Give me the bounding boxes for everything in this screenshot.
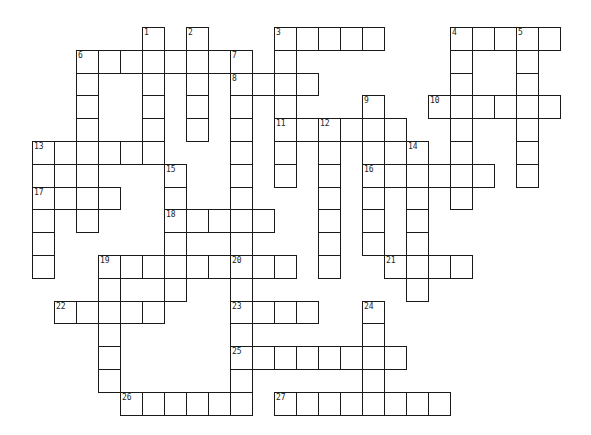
crossword-cell[interactable] — [450, 255, 473, 279]
crossword-cell[interactable] — [76, 301, 99, 325]
crossword-cell[interactable]: 2 — [186, 27, 209, 51]
crossword-cell[interactable] — [252, 73, 275, 97]
crossword-cell[interactable] — [384, 118, 407, 142]
crossword-cell[interactable]: 11 — [274, 118, 297, 142]
crossword-cell[interactable] — [230, 95, 253, 119]
crossword-cell[interactable] — [98, 278, 121, 302]
crossword-cell[interactable]: 15 — [164, 164, 187, 188]
crossword-cell[interactable]: 9 — [362, 95, 385, 119]
crossword-cell[interactable] — [76, 118, 99, 142]
crossword-cell[interactable]: 6 — [76, 50, 99, 74]
crossword-cell[interactable] — [428, 255, 451, 279]
crossword-cell[interactable] — [274, 346, 297, 370]
crossword-cell[interactable] — [296, 301, 319, 325]
crossword-cell[interactable] — [274, 73, 297, 97]
crossword-cell[interactable] — [362, 346, 385, 370]
crossword-cell[interactable] — [54, 164, 77, 188]
crossword-cell[interactable] — [362, 141, 385, 165]
crossword-cell[interactable]: 4 — [450, 27, 473, 51]
crossword-cell[interactable] — [516, 95, 539, 119]
crossword-cell[interactable]: 23 — [230, 301, 253, 325]
crossword-cell[interactable] — [252, 346, 275, 370]
crossword-cell[interactable]: 21 — [384, 255, 407, 279]
crossword-cell[interactable] — [296, 27, 319, 51]
crossword-cell[interactable] — [98, 141, 121, 165]
crossword-cell[interactable] — [230, 232, 253, 256]
crossword-cell[interactable] — [516, 164, 539, 188]
crossword-cell[interactable] — [252, 255, 275, 279]
crossword-cell[interactable] — [406, 187, 429, 211]
crossword-cell[interactable] — [98, 323, 121, 347]
crossword-cell[interactable]: 10 — [428, 95, 451, 119]
crossword-cell[interactable] — [274, 95, 297, 119]
crossword-cell[interactable] — [142, 118, 165, 142]
crossword-cell[interactable] — [164, 50, 187, 74]
crossword-cell[interactable] — [120, 255, 143, 279]
crossword-cell[interactable] — [296, 346, 319, 370]
crossword-cell[interactable] — [186, 73, 209, 97]
crossword-cell[interactable] — [186, 392, 209, 416]
crossword-cell[interactable] — [362, 323, 385, 347]
crossword-cell[interactable] — [98, 346, 121, 370]
crossword-cell[interactable] — [406, 232, 429, 256]
crossword-cell[interactable] — [516, 118, 539, 142]
crossword-cell[interactable] — [274, 164, 297, 188]
crossword-cell[interactable] — [186, 118, 209, 142]
crossword-cell[interactable]: 14 — [406, 141, 429, 165]
crossword-cell[interactable] — [406, 209, 429, 233]
crossword-cell[interactable] — [164, 187, 187, 211]
crossword-cell[interactable] — [208, 255, 231, 279]
crossword-cell[interactable] — [98, 50, 121, 74]
crossword-cell[interactable] — [384, 346, 407, 370]
crossword-cell[interactable]: 7 — [230, 50, 253, 74]
crossword-cell[interactable] — [318, 27, 341, 51]
crossword-cell[interactable] — [494, 27, 517, 51]
crossword-cell[interactable] — [362, 232, 385, 256]
crossword-cell[interactable] — [318, 141, 341, 165]
crossword-cell[interactable] — [296, 73, 319, 97]
crossword-cell[interactable]: 12 — [318, 118, 341, 142]
crossword-cell[interactable] — [142, 95, 165, 119]
crossword-cell[interactable] — [230, 164, 253, 188]
crossword-cell[interactable] — [450, 141, 473, 165]
crossword-cell[interactable] — [516, 50, 539, 74]
crossword-cell[interactable] — [428, 392, 451, 416]
crossword-cell[interactable] — [384, 164, 407, 188]
crossword-cell[interactable]: 5 — [516, 27, 539, 51]
crossword-cell[interactable] — [318, 255, 341, 279]
crossword-cell[interactable] — [406, 255, 429, 279]
crossword-cell[interactable] — [318, 164, 341, 188]
crossword-cell[interactable] — [230, 141, 253, 165]
crossword-cell[interactable] — [362, 392, 385, 416]
crossword-cell[interactable] — [120, 301, 143, 325]
crossword-cell[interactable] — [76, 141, 99, 165]
crossword-cell[interactable] — [142, 301, 165, 325]
crossword-cell[interactable] — [32, 232, 55, 256]
crossword-cell[interactable]: 8 — [230, 73, 253, 97]
crossword-cell[interactable] — [230, 118, 253, 142]
crossword-cell[interactable] — [164, 232, 187, 256]
crossword-cell[interactable] — [340, 346, 363, 370]
crossword-cell[interactable] — [384, 392, 407, 416]
crossword-cell[interactable] — [362, 118, 385, 142]
crossword-cell[interactable] — [230, 278, 253, 302]
crossword-cell[interactable] — [186, 209, 209, 233]
crossword-cell[interactable] — [538, 95, 561, 119]
crossword-cell[interactable] — [252, 301, 275, 325]
crossword-cell[interactable] — [142, 255, 165, 279]
crossword-cell[interactable] — [54, 187, 77, 211]
crossword-cell[interactable] — [230, 209, 253, 233]
crossword-cell[interactable] — [164, 392, 187, 416]
crossword-cell[interactable]: 16 — [362, 164, 385, 188]
crossword-cell[interactable] — [76, 95, 99, 119]
crossword-cell[interactable] — [494, 95, 517, 119]
crossword-cell[interactable] — [142, 73, 165, 97]
crossword-cell[interactable] — [450, 164, 473, 188]
crossword-cell[interactable] — [208, 392, 231, 416]
crossword-cell[interactable] — [340, 392, 363, 416]
crossword-cell[interactable] — [186, 255, 209, 279]
crossword-cell[interactable] — [32, 164, 55, 188]
crossword-cell[interactable] — [472, 95, 495, 119]
crossword-cell[interactable]: 3 — [274, 27, 297, 51]
crossword-cell[interactable] — [406, 164, 429, 188]
